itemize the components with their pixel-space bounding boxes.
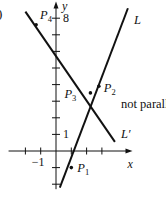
line-label-L-prime: L′ [120, 127, 131, 141]
y-tick-label: 8 [63, 11, 69, 25]
point-P3 [89, 91, 93, 95]
not-parallel-annotation: not parallel [121, 97, 166, 111]
point-label-subscript: 4 [48, 14, 53, 24]
point-label-P4: P4 [39, 8, 53, 24]
point-label-subscript: 3 [72, 93, 76, 103]
line-label-L: L [133, 13, 141, 27]
x-axis-arrow-icon [126, 149, 133, 154]
x-tick-label: −1 [32, 155, 45, 169]
y-axis-label: y [61, 0, 68, 13]
point-label-subscript: 1 [85, 167, 89, 177]
y-tick-label: 1 [63, 127, 69, 141]
point-P1 [70, 166, 74, 170]
point-label-subscript: 2 [111, 87, 115, 97]
point-P2 [97, 84, 101, 88]
point-label-P2: P2 [103, 81, 116, 97]
point-P4 [34, 23, 38, 27]
point-label-P1: P1 [76, 161, 89, 177]
point-label-P3: P3 [63, 87, 76, 103]
figure-partial-label: ) [0, 6, 2, 21]
x-axis-label: x [127, 157, 134, 171]
y-axis-arrow-icon [54, 2, 59, 9]
diagram-canvas: ) −118xy LL′ P1P2P3P4 not parallel [0, 0, 166, 203]
